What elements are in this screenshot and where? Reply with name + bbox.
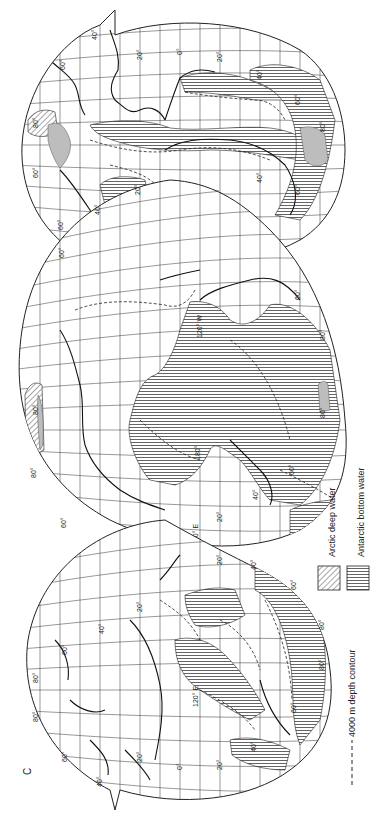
lon-label: 20°: [136, 49, 143, 60]
lon-label: 0°: [176, 48, 183, 55]
lat-label: 80°: [319, 407, 326, 418]
lat-label: 20°: [216, 511, 223, 522]
lat-label: 80°: [32, 711, 39, 722]
lat-label: 60°: [32, 167, 39, 178]
lat-label: 40°: [256, 69, 263, 80]
lat-label: 40°: [256, 172, 263, 183]
arctic-deep-water-region: [318, 381, 330, 412]
lat-label: 80°: [32, 117, 39, 128]
lon-label: 20°: [216, 51, 223, 62]
vertical-hatch-swatch: [347, 566, 369, 590]
lat-label: 40°: [250, 741, 257, 752]
lon-label: 180°: [194, 445, 201, 460]
lat-label: 80°: [30, 467, 37, 478]
lon-label: 20°: [216, 759, 223, 770]
lat-label: 40°: [91, 29, 98, 40]
lat-label: 40°: [96, 776, 103, 787]
lat-label: 60°: [294, 184, 301, 195]
lat-label: 60°: [294, 94, 301, 105]
legend-item-antarctic-bottom-water: Antarctic bottom water: [347, 467, 369, 590]
lat-label: 80°: [319, 121, 326, 132]
lat-label: 80°: [318, 619, 325, 630]
indian-lobe: 40° 60° 80° 80° 60° 40° 20° 20° 0° 20° 1…: [10, 510, 360, 820]
lat-label: 60°: [294, 289, 301, 300]
lat-label: 80°: [32, 404, 39, 415]
lat-label: 80°: [318, 659, 325, 670]
lat-label: 60°: [288, 464, 295, 475]
legend-label: Arctic deep water: [327, 487, 337, 557]
diagonal-hatch-swatch: [318, 566, 340, 590]
lat-label: 40°: [250, 559, 257, 570]
panel-letter: C: [22, 768, 33, 775]
lat-label: 80°: [32, 672, 39, 683]
lon-label: 120° E: [192, 686, 199, 707]
lat-label: 60°: [290, 702, 297, 713]
world-water-mass-map: 40° 60° 80° 60° 60° 20° 0° 20° 40° 60° 8…: [0, 0, 390, 833]
lat-label: 20°: [216, 554, 223, 565]
lon-label: 0°: [176, 763, 183, 770]
lat-label: 60°: [59, 59, 66, 70]
lat-label: 20°: [136, 751, 143, 762]
legend-item-depth-contour: 4000 m depth contour: [347, 649, 357, 785]
lat-label: 40°: [98, 623, 105, 634]
lat-label: 60°: [61, 751, 68, 762]
lat-label: 60°: [290, 579, 297, 590]
lat-label: 60°: [58, 247, 65, 258]
lat-label: 20°: [136, 601, 143, 612]
lat-label: 40°: [94, 204, 101, 215]
lon-label: 120° W: [196, 315, 203, 338]
lat-label: 60°: [57, 219, 64, 230]
lat-label: 40°: [252, 489, 259, 500]
lat-label: 60°: [61, 644, 68, 655]
lat-label: 80°: [319, 329, 326, 340]
lat-label: 60°: [60, 517, 67, 528]
legend-label: Antarctic bottom water: [356, 467, 366, 557]
lat-label: 20°: [134, 184, 141, 195]
legend: Arctic deep water Antarctic bottom water…: [318, 467, 369, 785]
legend-label: 4000 m depth contour: [347, 649, 357, 737]
